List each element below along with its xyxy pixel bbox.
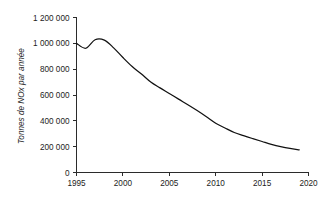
x-axis-tick-marks [77, 173, 309, 177]
y-tick-label: 0 [65, 169, 70, 178]
x-tick-label: 2000 [114, 179, 133, 188]
y-axis-title: Tonnes de NOx par année [17, 48, 26, 144]
y-tick-label: 1 000 000 [33, 39, 70, 48]
y-tick-label: 600 000 [40, 91, 70, 100]
x-axis-tick-labels: 199520002005201020152020 [67, 179, 318, 188]
x-tick-label: 2010 [207, 179, 226, 188]
y-tick-label: 800 000 [40, 65, 70, 74]
nox-emissions-line-chart: 0200 000400 000600 000800 0001 000 0001 … [0, 0, 321, 202]
data-series-line-nox [77, 39, 300, 150]
y-tick-label: 200 000 [40, 143, 70, 152]
x-tick-label: 2005 [160, 179, 179, 188]
y-tick-label: 1 200 000 [33, 14, 70, 23]
y-tick-label: 400 000 [40, 117, 70, 126]
x-tick-label: 2015 [253, 179, 272, 188]
x-tick-label: 2020 [299, 179, 318, 188]
y-axis-tick-marks [73, 18, 77, 173]
y-axis-tick-labels: 0200 000400 000600 000800 0001 000 0001 … [33, 14, 70, 178]
chart-container: 0200 000400 000600 000800 0001 000 0001 … [0, 0, 321, 202]
x-tick-label: 1995 [67, 179, 86, 188]
